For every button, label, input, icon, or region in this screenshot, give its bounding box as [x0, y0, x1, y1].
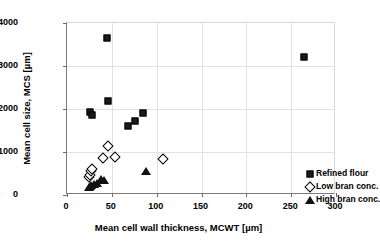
filled-square-icon	[304, 168, 315, 179]
data-point	[140, 110, 147, 117]
open-diamond-icon	[304, 181, 315, 192]
data-point	[104, 35, 111, 42]
gridline-vertical	[202, 23, 203, 193]
y-tick-label: 1000	[0, 147, 18, 156]
gridline-vertical	[246, 23, 247, 193]
x-tick-mark	[67, 193, 68, 197]
y-tick-label: 3000	[0, 61, 18, 70]
x-tick-mark	[202, 193, 203, 197]
data-point	[141, 167, 151, 175]
gridline-vertical	[291, 23, 292, 193]
y-tick-mark	[63, 66, 67, 67]
data-point	[105, 98, 112, 105]
legend-item[interactable]: Low bran conc.	[304, 180, 380, 193]
x-tick-label: 250	[270, 202, 310, 211]
y-tick-label: 2000	[0, 104, 18, 113]
gridline-vertical	[112, 23, 113, 193]
x-axis-title: Mean cell wall thickness, MCWT [µm]	[0, 222, 357, 233]
data-point	[99, 176, 109, 184]
x-tick-label: 100	[136, 202, 176, 211]
gridline-horizontal	[67, 66, 334, 67]
y-axis-title: Mean cell size, MCS [µm]	[21, 19, 32, 199]
data-point	[157, 154, 168, 165]
gridline-horizontal	[67, 109, 334, 110]
y-tick-mark	[63, 109, 67, 110]
legend-label: Low bran conc.	[315, 180, 378, 193]
x-tick-mark	[246, 193, 247, 197]
y-tick-label: 0	[0, 190, 18, 199]
data-point	[97, 153, 108, 164]
plot-area: Refined flourLow bran conc.High bran con…	[66, 22, 335, 194]
legend-label: Refined flour	[315, 167, 368, 180]
x-tick-label: 200	[225, 202, 265, 211]
legend-item[interactable]: Refined flour	[304, 167, 380, 180]
data-point	[124, 122, 131, 129]
x-tick-label: 0	[46, 202, 86, 211]
data-point	[89, 112, 96, 119]
y-tick-label: 4000	[0, 18, 18, 27]
x-tick-mark	[291, 193, 292, 197]
data-point	[132, 118, 139, 125]
y-tick-mark	[63, 152, 67, 153]
data-point	[300, 53, 307, 60]
x-tick-label: 50	[91, 202, 131, 211]
x-tick-label: 300	[315, 202, 355, 211]
gridline-horizontal	[67, 152, 334, 153]
x-tick-mark	[112, 193, 113, 197]
y-tick-mark	[63, 23, 67, 24]
x-tick-mark	[157, 193, 158, 197]
gridline-vertical	[157, 23, 158, 193]
x-tick-label: 150	[181, 202, 221, 211]
